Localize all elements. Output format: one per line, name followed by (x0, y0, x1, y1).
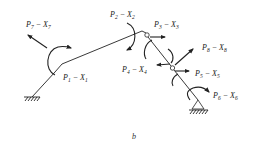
force-arrow-p4 (157, 64, 170, 65)
label-p7: P7 − X7 (25, 20, 51, 30)
force-arrow-p7 (28, 35, 47, 48)
label-p5: P5 − X5 (194, 69, 220, 79)
member-column (32, 72, 55, 97)
member-beam (55, 64, 62, 72)
label-p3: P3 − X3 (153, 20, 179, 30)
label-p8: P8 − X8 (201, 43, 227, 53)
svg-text:P7 − X7: P7 − X7 (25, 20, 51, 30)
svg-text:P6 − X6: P6 − X6 (212, 91, 238, 101)
figure-caption: b (132, 132, 136, 141)
label-p6: P6 − X6 (212, 91, 238, 101)
fixed-support-left (24, 97, 40, 101)
hinge-joint-5 (170, 66, 174, 70)
moment-arrow-p3 (144, 40, 152, 59)
moment-arrow-p6 (187, 87, 209, 100)
moment-arrow-p4 (168, 49, 173, 63)
svg-text:P8 − X8: P8 − X8 (201, 43, 227, 53)
label-p4: P4 − X4 (121, 65, 147, 75)
svg-text:P1 − X1: P1 − X1 (62, 73, 88, 83)
pin-support-right (189, 100, 208, 114)
moment-arrow-p5 (172, 74, 178, 86)
svg-text:P3 − X3: P3 − X3 (153, 20, 179, 30)
force-arrow-p8 (175, 49, 193, 65)
hinge-joint-3 (145, 33, 149, 37)
label-p2: P2 − X2 (109, 10, 135, 20)
member-inclined (148, 37, 171, 66)
structure-diagram: P7 − X7 P1 − X1 P2 − X2 P3 − X3 P4 − X4 … (0, 0, 260, 157)
svg-text:P4 − X4: P4 − X4 (121, 65, 147, 75)
moment-arrow-p1 (48, 47, 71, 75)
svg-text:P2 − X2: P2 − X2 (109, 10, 135, 20)
label-p1: P1 − X1 (62, 73, 88, 83)
svg-text:P5 − X5: P5 − X5 (194, 69, 220, 79)
